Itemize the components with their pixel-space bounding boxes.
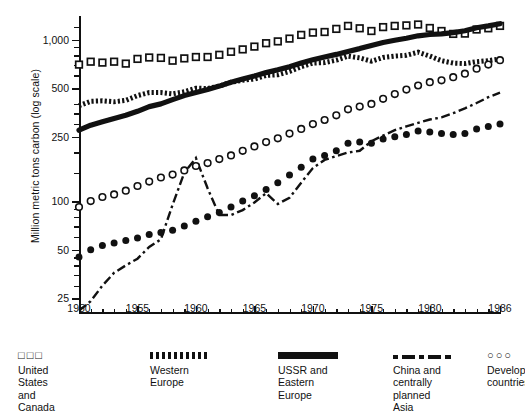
series-japan-australia-new-zealand [76, 121, 504, 261]
legend-marker: ○○○ [487, 345, 525, 359]
y-tick-major [72, 250, 79, 251]
plot-area: 25501002505001,000 [79, 16, 500, 314]
legend-marker [150, 345, 208, 359]
x-tick-label: 1960 [184, 302, 207, 314]
legend-marker [278, 345, 338, 359]
x-tick-label: 1955 [126, 302, 149, 314]
legend-marker: □□□ [18, 345, 55, 359]
x-tick-label: 1975 [360, 302, 383, 314]
legend-item-western-europe[interactable]: Western Europe [150, 345, 208, 389]
y-tick-label: 100 [51, 195, 69, 207]
legend-label: United States and Canada [18, 364, 55, 414]
legend-swatch-open-squares: □□□ [18, 349, 44, 361]
legend-label: USSR and Eastern Europe [278, 364, 338, 401]
y-tick-major [72, 298, 79, 299]
y-tick-major [72, 40, 79, 41]
y-axis-title: Million metric tons carbon (log scale) [29, 36, 41, 276]
data-series-layer [79, 16, 500, 314]
chart-root: Million metric tons carbon (log scale) 2… [0, 0, 525, 419]
series-china-and-centrally-planned-asia [79, 93, 500, 311]
y-tick-label: 1,000 [43, 34, 69, 46]
chart-legend: □□□United States and CanadaWestern Europ… [0, 345, 525, 419]
y-tick-major [72, 201, 79, 202]
legend-item-us-canada[interactable]: □□□United States and Canada [18, 345, 55, 414]
x-tick-label: 1980 [418, 302, 441, 314]
y-tick-major [72, 137, 79, 138]
y-tick-label: 50 [57, 244, 69, 256]
legend-swatch-dash-dot-bar [393, 355, 455, 359]
x-tick-label: 1970 [301, 302, 324, 314]
y-tick-label: 250 [51, 131, 69, 143]
y-tick-label: 500 [51, 82, 69, 94]
legend-swatch-dotted-bar [150, 352, 208, 359]
legend-item-developing[interactable]: ○○○Developing countries [487, 345, 525, 389]
legend-swatch-solid-bar [278, 352, 338, 359]
x-tick-label: 1950 [67, 302, 90, 314]
legend-marker [393, 345, 455, 359]
legend-swatch-open-circles: ○○○ [487, 349, 513, 361]
x-tick-label: 1965 [243, 302, 266, 314]
legend-label: China and centrally planned Asia [393, 364, 455, 414]
legend-label: Developing countries [487, 364, 525, 389]
y-tick-major [72, 88, 79, 89]
legend-item-china[interactable]: China and centrally planned Asia [393, 345, 455, 414]
legend-item-ussr-eastern[interactable]: USSR and Eastern Europe [278, 345, 338, 401]
x-tick-label: 1986 [488, 302, 511, 314]
series-western-europe [79, 52, 500, 105]
legend-label: Western Europe [150, 364, 208, 389]
